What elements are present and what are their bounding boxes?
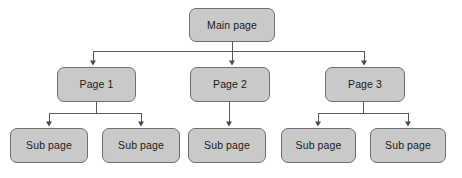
node-page-1[interactable]: Page 1 [57, 67, 136, 102]
node-label: Sub page [118, 140, 164, 151]
node-page-3[interactable]: Page 3 [325, 67, 405, 102]
node-sub-page-1[interactable]: Sub page [10, 128, 88, 163]
node-label: Sub page [296, 140, 342, 151]
node-sub-page-4[interactable]: Sub page [281, 128, 356, 163]
node-sub-page-3[interactable]: Sub page [188, 128, 266, 163]
node-sub-page-5[interactable]: Sub page [370, 128, 446, 163]
node-label: Sub page [385, 140, 431, 151]
node-label: Page 3 [348, 79, 382, 90]
node-label: Page 1 [80, 79, 114, 90]
node-page-2[interactable]: Page 2 [190, 67, 270, 102]
node-sub-page-2[interactable]: Sub page [102, 128, 180, 163]
node-main-page[interactable]: Main page [189, 8, 275, 42]
node-label: Sub page [26, 140, 72, 151]
node-label: Main page [207, 20, 257, 31]
sitemap-diagram: Main page Page 1 Page 2 Page 3 Sub page … [0, 0, 462, 178]
node-label: Page 2 [213, 79, 247, 90]
node-label: Sub page [204, 140, 250, 151]
